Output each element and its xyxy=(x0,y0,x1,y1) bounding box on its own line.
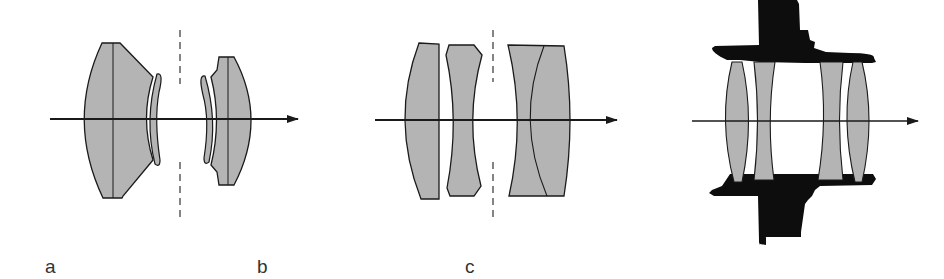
panel-b-diagram xyxy=(375,30,617,220)
lens-mount-top xyxy=(712,0,876,63)
lens-element-b1 xyxy=(405,43,439,199)
lens-element-a4 xyxy=(211,57,251,185)
lens-element-c1 xyxy=(725,62,748,182)
lens-element-a1 xyxy=(84,43,153,198)
panel-label-c: c xyxy=(465,256,475,278)
panel-label-b: b xyxy=(257,256,268,278)
lens-diagrams-svg xyxy=(0,0,944,279)
panel-c-diagram xyxy=(692,0,918,245)
panel-label-a: a xyxy=(45,256,56,278)
lens-diagram-figure: a b c xyxy=(0,0,944,279)
lens-mount-bottom xyxy=(709,174,876,245)
panel-a-diagram xyxy=(50,30,298,218)
lens-element-c4 xyxy=(847,62,869,182)
